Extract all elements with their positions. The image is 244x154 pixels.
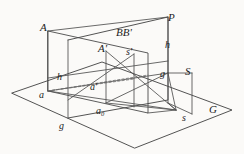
label-g-upper: g xyxy=(160,69,165,79)
label-h-left: h xyxy=(57,72,62,82)
label-h-right: h xyxy=(165,40,170,50)
label-a: a xyxy=(39,90,44,100)
line-objectplane-to-s xyxy=(148,110,176,113)
label-s: s xyxy=(182,113,186,123)
figure-canvas xyxy=(0,0,244,154)
ray-sprime-to-left xyxy=(68,54,134,100)
perspective-projection-figure: A P BB' h A' s' g S h a' a G a0 s g xyxy=(0,0,244,154)
label-s-prime: s' xyxy=(126,47,132,57)
label-A-prime: A' xyxy=(98,43,107,54)
ray-A-to-P xyxy=(48,17,168,31)
label-P: P xyxy=(168,12,175,23)
label-G: G xyxy=(209,104,217,115)
label-S: S xyxy=(185,66,191,77)
label-a-zero-subscript: 0 xyxy=(101,110,104,117)
label-g-lower: g xyxy=(59,121,64,131)
dashed-ray-a-extend xyxy=(48,75,148,91)
label-a-zero: a0 xyxy=(96,106,104,116)
label-a-prime: a' xyxy=(90,82,97,92)
station-square-bottom xyxy=(168,103,192,114)
label-A: A xyxy=(40,22,47,33)
label-BB-prime: BB' xyxy=(116,27,132,38)
